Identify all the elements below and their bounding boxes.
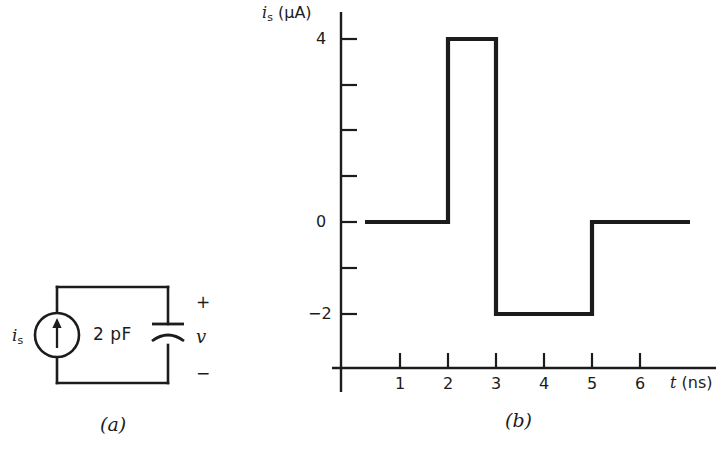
y-tick-label-minus-2: −2 bbox=[308, 306, 332, 322]
y-axis-title: is (μA) bbox=[262, 5, 312, 23]
x-axis-title: t (ns) bbox=[670, 375, 713, 391]
y-tick-label-0: 0 bbox=[316, 214, 326, 230]
x-tick-label-1: 1 bbox=[395, 376, 405, 392]
x-tick-label-5: 5 bbox=[587, 376, 597, 392]
figure-root: is 2 pF + v − (a) bbox=[0, 0, 722, 450]
x-axis-ticks bbox=[400, 353, 640, 368]
y-tick-label-4: 4 bbox=[316, 31, 326, 47]
waveform-trace bbox=[365, 39, 690, 314]
x-tick-label-3: 3 bbox=[491, 376, 501, 392]
x-tick-label-6: 6 bbox=[635, 376, 645, 392]
panel-b-plot: is (μA) 4 0 −2 1 2 3 4 5 6 t (ns) (b) bbox=[0, 0, 722, 450]
current-waveform-chart bbox=[0, 0, 722, 450]
y-axis-ticks bbox=[341, 39, 357, 314]
panel-b-caption: (b) bbox=[505, 409, 532, 431]
x-tick-label-2: 2 bbox=[443, 376, 453, 392]
x-tick-label-4: 4 bbox=[539, 376, 549, 392]
